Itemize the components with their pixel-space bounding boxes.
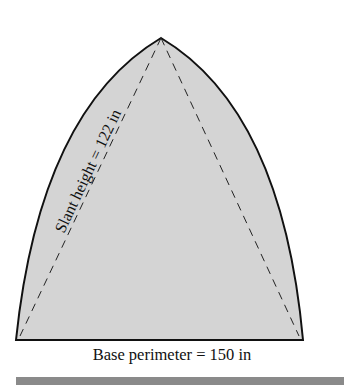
footer-bar — [16, 377, 344, 385]
ogive-diagram: Slant height = 122 in — [0, 0, 344, 385]
base-perimeter-label: Base perimeter = 150 in — [0, 345, 344, 365]
curved-face-shape — [16, 38, 303, 340]
